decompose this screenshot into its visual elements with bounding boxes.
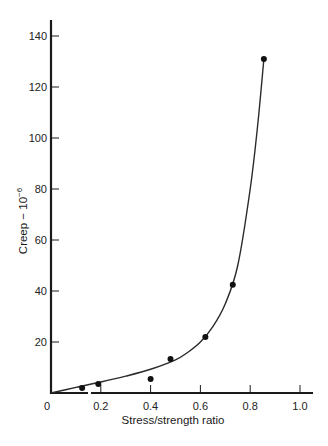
data-point [261, 56, 267, 62]
fitted-curve [51, 59, 264, 393]
ticks: 204060801001201400.20.40.60.81.0 [29, 30, 308, 412]
origin-label: 0 [44, 400, 50, 412]
y-tick-label: 100 [29, 132, 47, 144]
y-tick-label: 140 [29, 30, 47, 42]
x-tick-label: 0.4 [143, 400, 158, 412]
y-axis-title: Creep − 10 [17, 197, 29, 254]
y-axis-title-group: Creep − 10−6 [15, 187, 29, 254]
creep-chart: 204060801001201400.20.40.60.81.0 0 Stres… [0, 0, 328, 446]
svg-text:Creep − 10−6: Creep − 10−6 [15, 187, 29, 254]
x-axis-title: Stress/strength ratio [122, 414, 225, 426]
y-axis-exponent: −6 [15, 187, 24, 197]
data-point [148, 376, 154, 382]
axes [50, 20, 313, 395]
x-tick-label: 0.8 [243, 400, 258, 412]
data-point [168, 356, 174, 362]
axis-gap [88, 391, 91, 395]
y-tick-label: 20 [35, 336, 47, 348]
data-point [79, 385, 85, 391]
data-point [202, 334, 208, 340]
data-points [79, 56, 267, 391]
data-point [95, 381, 101, 387]
x-tick-label: 1.0 [292, 400, 307, 412]
y-tick-label: 80 [35, 183, 47, 195]
y-tick-label: 40 [35, 285, 47, 297]
curve-path [51, 59, 264, 393]
x-tick-label: 0.2 [93, 400, 108, 412]
y-tick-label: 120 [29, 81, 47, 93]
data-point [230, 282, 236, 288]
x-tick-label: 0.6 [193, 400, 208, 412]
y-tick-label: 60 [35, 234, 47, 246]
